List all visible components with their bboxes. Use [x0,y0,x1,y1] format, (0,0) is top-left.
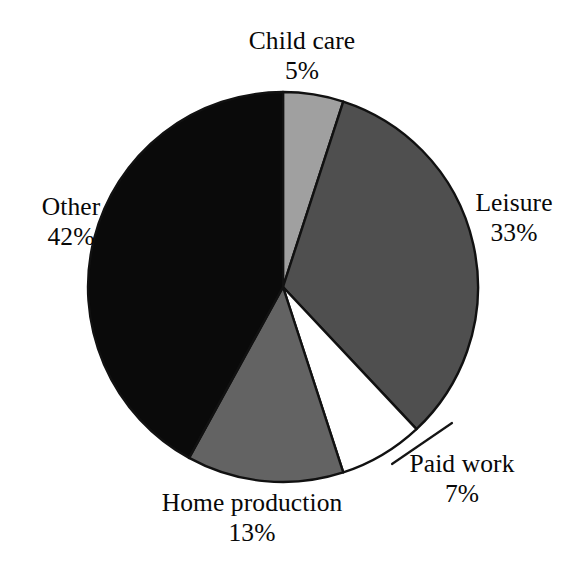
slice-label-leisure: Leisure 33% [452,188,569,248]
slice-label-leisure-name: Leisure [452,188,569,218]
slice-label-home-production-name: Home production [118,488,386,518]
slice-label-home-production: Home production 13% [118,488,386,548]
slice-label-paid-work: Paid work 7% [382,449,542,509]
slice-label-other-name: Other [8,192,134,222]
slice-label-home-production-value: 13% [118,518,386,548]
slice-label-child-care-name: Child care [212,26,392,56]
slice-label-child-care-value: 5% [212,56,392,86]
pie-chart: Child care 5% Leisure 33% Other 42% Home… [0,0,569,570]
slice-label-other-value: 42% [8,222,134,252]
slice-label-leisure-value: 33% [452,218,569,248]
slice-label-other: Other 42% [8,192,134,252]
slice-label-child-care: Child care 5% [212,26,392,86]
pie-slice-group [88,92,478,482]
slice-label-paid-work-value: 7% [382,479,542,509]
slice-label-paid-work-name: Paid work [382,449,542,479]
